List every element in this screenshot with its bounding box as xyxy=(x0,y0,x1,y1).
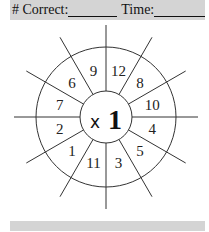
wheel-number: 9 xyxy=(90,63,98,79)
wheel-number: 5 xyxy=(136,143,144,159)
wheel-number: 3 xyxy=(115,155,123,171)
wheel-number: 10 xyxy=(145,97,160,113)
footer-band xyxy=(10,221,205,231)
wheel-number: 4 xyxy=(149,121,157,137)
spoke-line xyxy=(60,37,93,94)
times-table-wheel: 128104531112769 x 1 xyxy=(0,0,209,232)
wheel-number: 2 xyxy=(56,121,64,137)
operator-sign: x xyxy=(90,112,100,132)
wheel-number: 8 xyxy=(136,75,144,91)
wheel-number: 6 xyxy=(68,75,76,91)
wheel-number: 12 xyxy=(111,63,126,79)
wheel-number: 1 xyxy=(68,143,76,159)
factor-number: 1 xyxy=(108,104,122,135)
wheel-number: 7 xyxy=(56,97,64,113)
center-circle xyxy=(80,91,132,143)
wheel-number: 11 xyxy=(86,155,100,171)
